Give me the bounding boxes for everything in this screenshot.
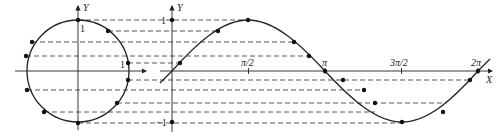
graph-x-label: X: [485, 74, 493, 85]
circle-right-one-label: 1: [120, 59, 125, 70]
graph-one-label: 1: [161, 15, 166, 26]
two-pi-label: 2π: [471, 57, 482, 68]
circle-y-label: Y: [83, 2, 90, 13]
pi-half-label: π/2: [241, 57, 254, 68]
unit-circle: Y 1 1: [15, 2, 146, 130]
projection-lines: [26, 20, 470, 123]
sine-graph: Y X 1 −1 π/2 π 3π/2 2π: [156, 2, 493, 132]
unit-circle-sine-diagram: Y 1 1 Y X 1 −1 π/2 π 3π/2: [0, 0, 504, 139]
circle-points: [24, 18, 130, 125]
graph-y-label: Y: [177, 2, 184, 13]
circle-top-one-label: 1: [80, 23, 85, 34]
graph-neg-one-label: −1: [156, 117, 167, 128]
pi-label: π: [322, 57, 328, 68]
three-pi-half-label: 3π/2: [389, 57, 408, 68]
